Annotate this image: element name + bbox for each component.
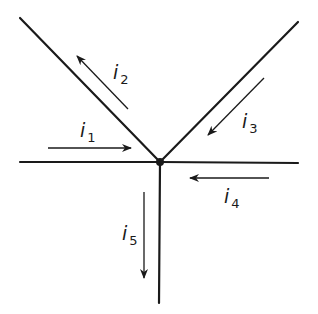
junction-node (156, 158, 164, 166)
wire-right-horizontal (160, 162, 298, 163)
current-label-i3: i3 (242, 110, 258, 136)
current-label-i1: i1 (80, 119, 96, 145)
wire-vertical-down (159, 162, 160, 303)
wire-right-diagonal (160, 22, 298, 162)
current-label-i2: i2 (113, 61, 129, 87)
kcl-node-diagram: i1i2i3i4i5 (0, 0, 318, 314)
current-label-i5: i5 (122, 222, 138, 248)
current-label-i4: i4 (224, 185, 240, 211)
